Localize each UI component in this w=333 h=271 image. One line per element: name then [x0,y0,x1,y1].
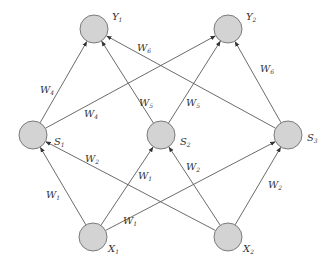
weight-label-x2-s1: W2 [85,153,99,165]
label-y1: Y1 [112,11,122,23]
edge-s1-y2 [45,36,215,128]
label-x2: X2 [242,243,254,255]
edge-s1-y1 [40,42,87,123]
node-y2 [214,15,242,43]
weight-label-x1-s3: W1 [123,215,137,227]
weight-label-x2-s2: W2 [186,161,200,173]
edge-x1-s2 [101,147,153,225]
edge-s2-y1 [102,41,154,123]
node-x2 [214,223,242,251]
weight-label-s3-y2: W6 [260,63,274,75]
edge-s3-y2 [235,42,281,123]
node-s3 [274,121,302,149]
label-s3: S3 [307,132,318,144]
label-x1: X1 [107,243,119,255]
weight-label-x2-s3: W2 [268,179,282,191]
label-s1: S1 [54,136,65,148]
weight-label-s2-y1: W5 [139,97,153,109]
label-s2: S2 [180,136,191,148]
edge-s3-y1 [107,36,276,128]
neural-network-diagram: Y1 Y2 S1 S2 S3 X1 X2 W4 W4 W5 W5 W6 W6 W… [0,0,333,271]
edge-x2-s2 [169,147,220,225]
weight-label-s1-y2: W4 [84,108,98,120]
node-x1 [79,223,107,251]
label-y2: Y2 [246,11,257,23]
node-s2 [147,121,175,149]
node-y1 [80,15,108,43]
node-s1 [19,121,47,149]
edge-s2-y2 [169,41,221,123]
nodes [19,15,302,251]
weight-label-x1-s1: W1 [46,189,60,201]
weight-label-s1-y1: W4 [40,84,54,96]
weight-label-s2-y2: W5 [186,97,200,109]
weight-label-s3-y1: W6 [137,42,151,54]
weight-label-x1-s2: W1 [138,170,152,182]
